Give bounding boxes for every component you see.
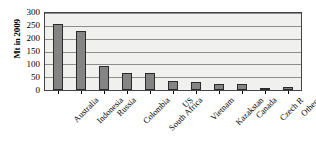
bar[interactable] <box>99 66 109 90</box>
bar[interactable] <box>145 73 155 90</box>
bar-chart: Mt in 2009 300250200150100500 AustraliaI… <box>0 0 316 147</box>
bar-slot <box>139 13 162 90</box>
bar-slot <box>230 13 253 90</box>
bar[interactable] <box>214 84 224 90</box>
bar-slot <box>70 13 93 90</box>
bar-slot <box>162 13 185 90</box>
y-tick-label: 50 <box>16 73 40 82</box>
bar[interactable] <box>76 31 86 90</box>
bar[interactable] <box>122 73 132 90</box>
x-tick-mark <box>288 91 289 94</box>
bar-slot <box>276 13 299 90</box>
x-tick-mark <box>150 91 151 94</box>
bar[interactable] <box>191 82 201 90</box>
bar[interactable] <box>283 87 293 90</box>
bar[interactable] <box>168 81 178 90</box>
bar-slot <box>93 13 116 90</box>
x-tick-mark <box>196 91 197 94</box>
x-tick-mark <box>81 91 82 94</box>
x-tick-mark <box>265 91 266 94</box>
y-tick-label: 100 <box>16 60 40 69</box>
bar[interactable] <box>260 88 270 90</box>
x-category-label: Colombia <box>141 95 172 126</box>
x-tick-mark <box>127 91 128 94</box>
bar[interactable] <box>53 24 63 90</box>
y-tick-label: 200 <box>16 34 40 43</box>
y-tick-label: 150 <box>16 47 40 56</box>
x-tick-mark <box>173 91 174 94</box>
bar-slot <box>184 13 207 90</box>
y-axis-tick-labels: 300250200150100500 <box>16 8 40 94</box>
bar-slot <box>207 13 230 90</box>
x-tick-mark <box>104 91 105 94</box>
y-tick-label: 0 <box>16 86 40 95</box>
y-tick-label: 250 <box>16 21 40 30</box>
bar-slot <box>116 13 139 90</box>
x-tick-mark <box>219 91 220 94</box>
y-tick-label: 300 <box>16 8 40 17</box>
x-category-label: Vietnam <box>209 95 236 122</box>
bar-slot <box>47 13 70 90</box>
x-tick-mark <box>242 91 243 94</box>
plot-area <box>44 12 302 91</box>
bars-container <box>45 13 301 90</box>
bar-slot <box>253 13 276 90</box>
x-axis-category-labels: AustraliaIndonesiaRussiaColombiaSouth Af… <box>0 95 316 147</box>
x-tick-mark <box>58 91 59 94</box>
bar[interactable] <box>237 84 247 90</box>
